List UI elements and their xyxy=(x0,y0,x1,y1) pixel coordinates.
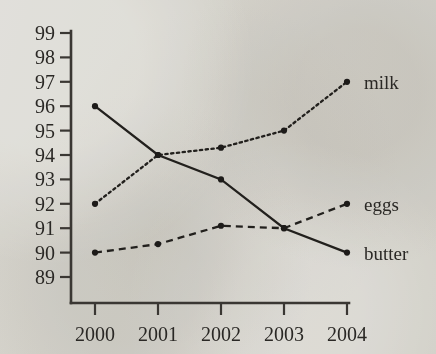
y-tick-label-99: 99 xyxy=(35,22,55,44)
x-tick-label-2002: 2002 xyxy=(201,323,241,345)
x-tick-label-2000: 2000 xyxy=(75,323,115,345)
data-point-butter-2003 xyxy=(281,225,287,231)
y-tick-label-91: 91 xyxy=(35,217,55,239)
data-point-milk-2000 xyxy=(92,201,98,207)
data-point-eggs-2001 xyxy=(155,241,161,247)
x-axis-tick-labels: 20002001200220032004 xyxy=(75,323,367,345)
x-tick-label-2001: 2001 xyxy=(138,323,178,345)
data-point-eggs-2004 xyxy=(344,201,350,207)
y-tick-label-96: 96 xyxy=(35,95,55,117)
y-axis-ticks xyxy=(60,33,71,277)
y-tick-label-92: 92 xyxy=(35,193,55,215)
series-label-butter: butter xyxy=(364,243,409,264)
y-tick-label-98: 98 xyxy=(35,46,55,68)
data-point-eggs-2002 xyxy=(218,223,224,229)
data-point-milk-2002 xyxy=(218,145,224,151)
x-axis-ticks xyxy=(95,303,347,315)
y-axis-tick-labels: 8990919293949596979899 xyxy=(35,22,55,288)
series-label-milk: milk xyxy=(364,72,399,93)
y-tick-label-93: 93 xyxy=(35,168,55,190)
x-tick-label-2004: 2004 xyxy=(327,323,367,345)
data-point-butter-2002 xyxy=(218,176,224,182)
data-point-milk-2003 xyxy=(281,128,287,134)
y-tick-label-89: 89 xyxy=(35,266,55,288)
series-end-labels: milkeggsbutter xyxy=(364,72,409,264)
chart-canvas: 8990919293949596979899 20002001200220032… xyxy=(0,0,436,354)
y-tick-label-94: 94 xyxy=(35,144,55,166)
y-tick-label-90: 90 xyxy=(35,242,55,264)
series-markers xyxy=(92,79,350,256)
axes xyxy=(71,31,349,303)
series-label-eggs: eggs xyxy=(364,194,399,215)
data-point-butter-2001 xyxy=(155,152,161,158)
series-line-milk xyxy=(95,82,347,204)
data-point-eggs-2000 xyxy=(92,250,98,256)
y-tick-label-97: 97 xyxy=(35,71,55,93)
data-point-milk-2004 xyxy=(344,79,350,85)
line-chart: 8990919293949596979899 20002001200220032… xyxy=(0,0,436,354)
y-tick-label-95: 95 xyxy=(35,120,55,142)
data-point-butter-2000 xyxy=(92,103,98,109)
x-tick-label-2003: 2003 xyxy=(264,323,304,345)
data-point-butter-2004 xyxy=(344,250,350,256)
